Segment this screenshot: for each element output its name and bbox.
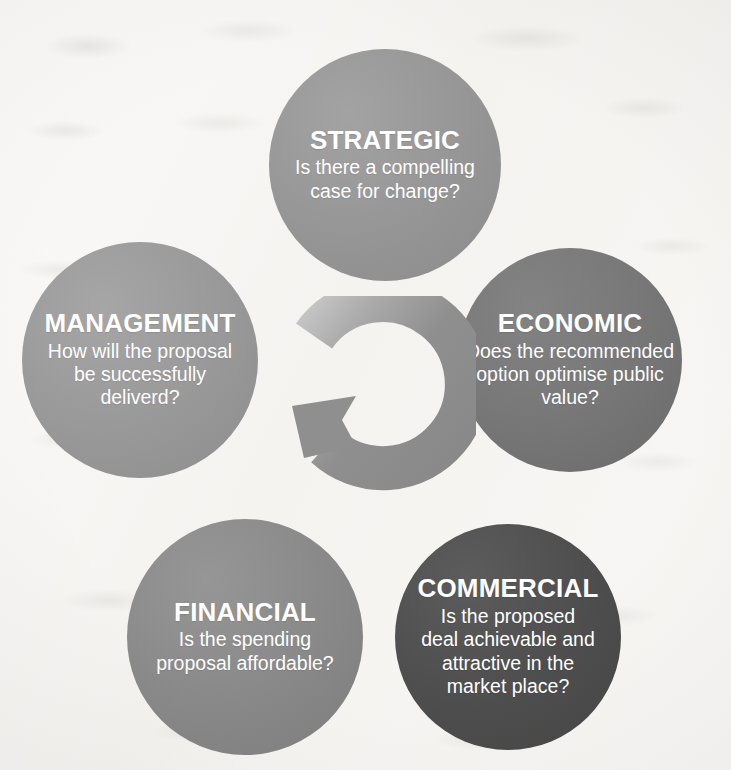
circle-node-commercial-description: Is the proposed deal achievable and attr… xyxy=(375,605,642,699)
circle-node-financial-title: FINANCIAL xyxy=(106,599,384,627)
circle-node-strategic-title: STRATEGIC xyxy=(248,127,522,155)
circular-arrow-icon xyxy=(270,296,476,504)
circle-node-management-text: MANAGEMENT How will the proposal be succ… xyxy=(1,310,279,410)
circle-node-economic[interactable]: ECONOMIC Does the recommended option opt… xyxy=(458,248,682,472)
circle-node-financial-text: FINANCIAL Is the spending proposal affor… xyxy=(106,599,384,675)
circle-node-economic-title: ECONOMIC xyxy=(438,310,702,338)
circle-node-commercial[interactable]: COMMERCIAL Is the proposed deal achievab… xyxy=(395,524,621,750)
circle-node-management-title: MANAGEMENT xyxy=(1,310,279,338)
circle-node-commercial-text: COMMERCIAL Is the proposed deal achievab… xyxy=(375,575,642,698)
circle-node-strategic-description: Is there a compelling case for change? xyxy=(248,156,522,203)
circle-node-financial-description: Is the spending proposal affordable? xyxy=(106,628,384,675)
circle-node-commercial-title: COMMERCIAL xyxy=(375,575,642,603)
circle-node-strategic[interactable]: STRATEGIC Is there a compelling case for… xyxy=(269,49,501,281)
diagram-canvas: STRATEGIC Is there a compelling case for… xyxy=(0,0,731,770)
circle-node-management-description: How will the proposal be successfully de… xyxy=(1,340,279,410)
circle-node-financial[interactable]: FINANCIAL Is the spending proposal affor… xyxy=(127,519,363,755)
circle-node-economic-description: Does the recommended option optimise pub… xyxy=(438,340,702,410)
circle-node-economic-text: ECONOMIC Does the recommended option opt… xyxy=(438,310,702,410)
circle-node-management[interactable]: MANAGEMENT How will the proposal be succ… xyxy=(22,242,258,478)
circle-node-strategic-text: STRATEGIC Is there a compelling case for… xyxy=(248,127,522,203)
